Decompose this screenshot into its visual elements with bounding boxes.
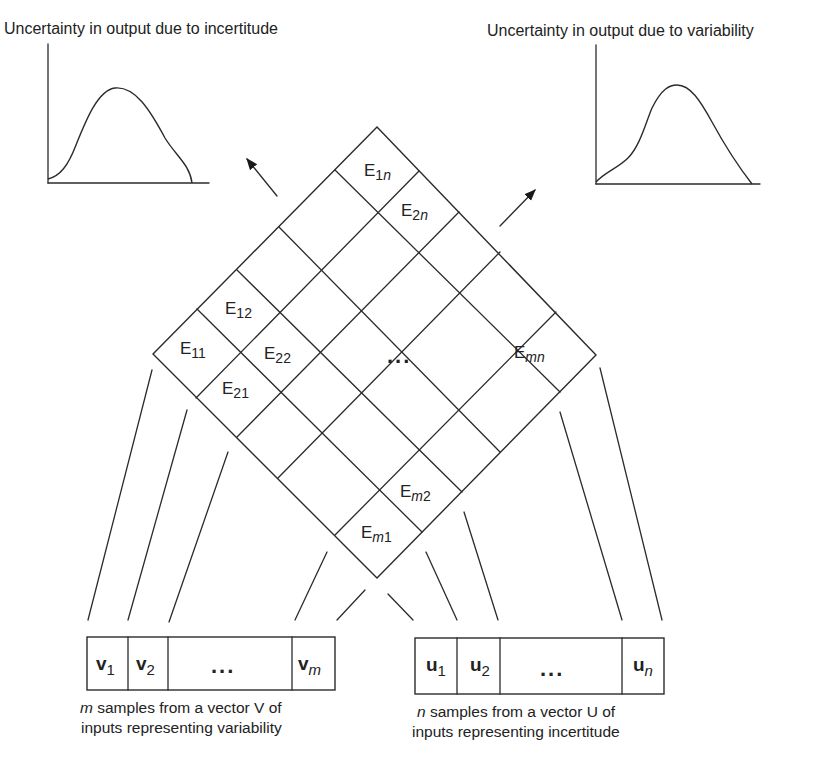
vector-u-caption-line2: inputs representing incertitude	[412, 723, 620, 740]
connector-line	[426, 552, 457, 620]
ensemble-matrix: E1n E2n E12 E11 E22 E21 ... Emn Em2 Em1	[153, 127, 596, 578]
incertitude-distribution-curve	[48, 88, 192, 183]
diagram-canvas: Uncertainty in output due to incertitude…	[0, 0, 821, 765]
matrix-ellipsis: ...	[387, 343, 411, 368]
vector-v-caption-line2: inputs representing variability	[81, 719, 282, 736]
incertitude-plot-title: Uncertainty in output due to incertitude	[4, 20, 278, 37]
vector-u-caption-line1: n samples from a vector U of	[417, 703, 616, 720]
connector-line	[295, 552, 327, 620]
connector-line	[88, 370, 152, 620]
vector-u: u1 u2 ... un n samples from a vector U o…	[412, 638, 664, 740]
connector-line	[388, 594, 413, 620]
vector-v: v1 v2 ... vm m samples from a vector V o…	[80, 637, 335, 736]
arrow-to-incertitude-plot	[247, 159, 277, 196]
connector-line	[600, 368, 662, 620]
connector-line	[464, 512, 498, 620]
variability-output-plot: Uncertainty in output due to variability	[487, 22, 760, 184]
vector-u-ellipsis: ...	[540, 656, 564, 681]
incertitude-output-plot: Uncertainty in output due to incertitude	[4, 20, 278, 183]
vector-v-caption-line1: m samples from a vector V of	[80, 699, 282, 716]
variability-distribution-curve	[596, 85, 752, 184]
vector-v-ellipsis: ...	[211, 653, 235, 678]
connector-line	[337, 590, 365, 620]
connector-line	[560, 412, 622, 620]
connector-line	[169, 452, 228, 622]
arrow-to-variability-plot	[500, 190, 535, 226]
variability-plot-title: Uncertainty in output due to variability	[487, 22, 754, 39]
connector-line	[128, 410, 187, 620]
